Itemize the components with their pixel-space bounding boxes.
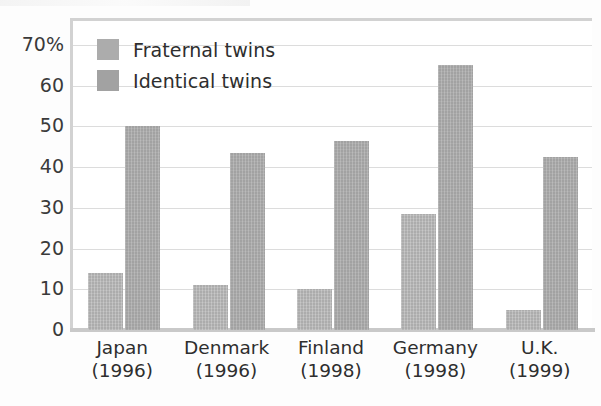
x-tick-finland: Finland(1998)	[279, 336, 383, 382]
y-tick-label: 60	[2, 76, 64, 95]
chart-legend: Fraternal twins Identical twins	[97, 34, 327, 96]
scan-artifact-strip	[0, 0, 250, 6]
x-tick-germany: Germany(1998)	[383, 336, 487, 382]
bar	[88, 273, 123, 330]
x-tick-country: Denmark	[184, 337, 269, 358]
bar-group	[488, 18, 592, 330]
bar	[438, 65, 473, 330]
bar-group	[383, 18, 487, 330]
x-tick-denmark: Denmark(1996)	[174, 336, 278, 382]
y-tick-label: 0	[2, 320, 64, 339]
x-tick-year: (1998)	[279, 359, 383, 382]
bar	[297, 289, 332, 330]
legend-swatch-fraternal	[97, 39, 119, 60]
x-tick-country: U.K.	[521, 337, 558, 358]
y-tick-label: 30	[2, 198, 64, 217]
bar	[506, 310, 541, 330]
legend-label-fraternal: Fraternal twins	[133, 39, 275, 61]
bar-chart-figure: 70%6050403020100 Fraternal twins Identic…	[0, 0, 601, 406]
x-tick-country: Finland	[298, 337, 364, 358]
bar	[230, 153, 265, 330]
x-tick-country: Japan	[96, 337, 148, 358]
bar	[543, 157, 578, 330]
x-tick-year: (1996)	[70, 359, 174, 382]
y-tick-label: 20	[2, 239, 64, 258]
x-tick-year: (1996)	[174, 359, 278, 382]
legend-swatch-identical	[97, 70, 119, 91]
y-tick-label: 10	[2, 279, 64, 298]
legend-label-identical: Identical twins	[133, 70, 272, 92]
bar	[334, 141, 369, 330]
x-tick-u-k: U.K.(1999)	[488, 336, 592, 382]
legend-item-identical: Identical twins	[97, 65, 327, 96]
x-tick-year: (1999)	[488, 359, 592, 382]
x-tick-country: Germany	[393, 337, 478, 358]
y-tick-label: 40	[2, 157, 64, 176]
legend-item-fraternal: Fraternal twins	[97, 34, 327, 65]
bar	[401, 214, 436, 330]
x-axis-tick-labels: Japan(1996)Denmark(1996)Finland(1998)Ger…	[70, 336, 592, 396]
bar	[125, 126, 160, 330]
x-tick-year: (1998)	[383, 359, 487, 382]
y-tick-label: 70%	[2, 35, 64, 54]
x-tick-japan: Japan(1996)	[70, 336, 174, 382]
bar	[193, 285, 228, 330]
y-tick-label: 50	[2, 116, 64, 135]
